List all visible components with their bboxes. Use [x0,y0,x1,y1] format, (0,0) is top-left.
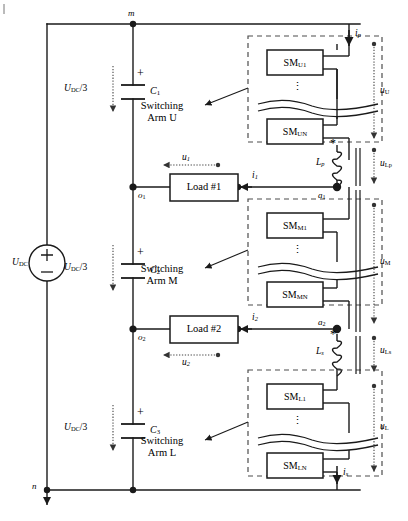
c3-main: C [150,424,157,435]
lp-sub: p [321,160,324,167]
u1-sub: 1 [187,155,190,162]
capacitor-c3-label: C3 [150,424,160,435]
udc3-c3-main: U [64,422,71,432]
dc-source-sub: DC [19,260,28,267]
uL-sub: L [385,424,389,431]
node-label-o2: o2 [138,332,146,342]
inductor-lp-dot-marking: * [330,136,336,151]
sm-u1-sub: U1 [298,61,306,68]
switching-arm-l-caption: Switching Arm L [120,435,204,459]
is-sub: s [346,470,349,477]
voltage-udc3-c1: UDC/3 [64,83,87,93]
i2-sub: 2 [255,315,258,322]
sm-ln-main: SM [283,460,297,471]
ls-sub: s [321,349,324,356]
udc3-c1-sub: DC [71,86,80,93]
current-i2-label: i2 [252,312,258,322]
arm-u-sm-top-label: SMU1 [267,57,323,68]
inductor-lp-label: Lp [316,157,325,167]
inductor-ls-dot-marking: * [330,327,336,342]
sm-m1-main: SM [283,220,297,231]
u2-sub: 2 [187,360,190,367]
uLs-sub: Ls [385,348,391,355]
c1-main: C [150,85,157,96]
arm-u-break-lines [258,100,378,116]
current-i1-label: i1 [252,170,258,180]
node-label-o1: o1 [138,190,146,200]
load-1-label: Load #1 [170,181,238,192]
uM-sub: M [385,259,391,266]
voltage-udc3-c3: UDC/3 [64,422,87,432]
node-label-a1: a1 [318,190,326,200]
circuit-diagram-canvas: m n o1 o2 a1 a2 UDC C1 C2 C3 + + + UDC/3… [0,0,408,521]
arm-u-caption-line2: Arm U [147,112,176,123]
voltage-uLp-label: uLp [380,158,392,168]
capacitor-c2-polarity: + [137,245,144,260]
node-a2-sub: 2 [323,321,326,327]
udc3-c3-div: /3 [80,422,87,432]
node-label-m: m [128,8,135,18]
arm-m-ellipsis: ⋮ [292,243,303,256]
arm-l-graphics [248,370,382,490]
voltage-udc3-c2: UDC/3 [64,262,87,272]
capacitor-c1-label: C1 [150,85,160,96]
sm-l1-main: SM [284,391,298,402]
uU-sub: U [385,88,390,95]
arm-l-caption-line2: Arm L [148,447,176,458]
sm-mn-main: SM [282,289,296,300]
dc-source-main: U [12,257,19,267]
ip-sub: p [358,31,361,38]
dc-source-label: UDC [12,257,28,267]
voltage-uM-label: uM [380,256,391,266]
circuit-schematic-svg [0,0,408,521]
voltage-uLs-label: uLs [380,345,391,355]
node-o1-sub: 1 [143,194,146,200]
arm-u-callout [205,88,248,105]
udc3-c1-div: /3 [80,83,87,93]
arm-m-sm-bottom-label: SMMN [267,289,323,300]
sm-u1-main: SM [284,57,298,68]
arm-callout-arrows [205,88,248,440]
sm-un-main: SM [283,126,297,137]
coupling-rails [356,148,360,374]
sm-mn-sub: MN [297,293,308,300]
udc3-c1-main: U [64,83,71,93]
uLp-sub: Lp [385,161,392,168]
sm-ln-sub: LN [298,464,307,471]
switching-arm-u-caption: Switching Arm U [120,100,204,124]
node-a1-sub: 1 [323,194,326,200]
node-o2-sub: 2 [143,336,146,342]
udc3-c2-div: /3 [80,262,87,272]
dc-source-symbol [29,245,65,281]
arm-l-ellipsis: ⋮ [292,414,303,427]
sm-un-sub: UN [297,130,307,137]
current-ip-label: ip [355,28,361,38]
voltage-uL-label: uL [380,421,389,431]
current-arrows [337,30,349,484]
arm-l-callout [205,422,248,440]
voltage-u2-label: u2 [182,357,190,367]
switching-arm-m-caption: Switching Arm M [120,263,204,287]
arm-m-graphics [248,187,382,329]
arm-u-ellipsis: ⋮ [292,80,303,93]
capacitor-c1-polarity: + [137,66,144,81]
c1-sub: 1 [157,89,160,96]
arm-l-break-lines [258,434,378,450]
node-label-a2: a2 [318,317,326,327]
capacitor-c3-polarity: + [137,405,144,420]
udc3-c3-sub: DC [71,425,80,432]
voltage-u1-label: u1 [182,152,190,162]
current-is-label: is [343,467,348,477]
sm-l1-sub: L1 [298,395,306,402]
wires-main [47,24,360,490]
voltage-uU-label: uU [380,85,389,95]
inductor-ls-label: Ls [316,346,324,356]
arm-u-graphics [248,24,382,160]
arm-m-caption-line2: Arm M [146,275,177,286]
i1-sub: 1 [255,173,258,180]
arm-u-sm-bottom-label: SMUN [267,126,323,137]
sm-m1-sub: M1 [298,224,307,231]
arm-l-sm-top-label: SML1 [267,391,323,402]
arm-m-sm-top-label: SMM1 [267,220,323,231]
udc3-c2-sub: DC [71,265,80,272]
